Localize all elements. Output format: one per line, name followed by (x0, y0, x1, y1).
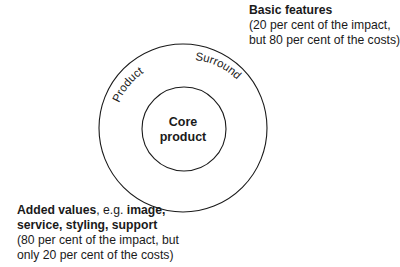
basic-features-line2: but 80 per cent of the costs) (249, 33, 369, 48)
added-values-line2: only 20 per cent of the costs) (17, 248, 179, 263)
added-values-sep: , e.g. (96, 203, 127, 217)
inner-circle (142, 87, 226, 171)
added-values-title: Added values (17, 203, 96, 217)
added-values-examples-a: image, (127, 203, 166, 217)
surround-ring-label: Surround (195, 50, 244, 81)
core-label-line2: product (160, 130, 207, 144)
basic-features-line1: (20 per cent of the impact, (249, 18, 369, 33)
added-values-examples-b: service, styling, support (17, 218, 157, 232)
basic-features-note: Basic features (20 per cent of the impac… (249, 3, 369, 48)
added-values-line1: (80 per cent of the impact, but (17, 233, 179, 248)
product-ring-label: Product (110, 64, 146, 104)
core-label-line1: Core (169, 115, 198, 129)
added-values-note: Added values, e.g. image, service, styli… (17, 203, 179, 263)
basic-features-title: Basic features (249, 3, 332, 17)
